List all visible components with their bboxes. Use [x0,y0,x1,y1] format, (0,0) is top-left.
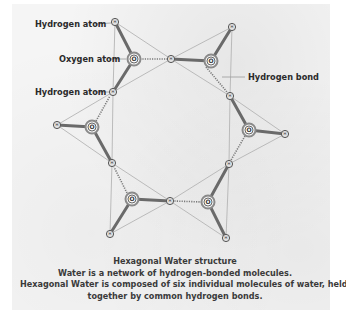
svg-text:H: H [228,161,231,166]
svg-text:H: H [284,131,287,136]
svg-text:O: O [208,57,213,64]
label-hydrogen-bond: Hydrogen bond [248,72,319,82]
hexagonal-water-figure: O O O O O O H H H H H H H H H H H H Hydr… [0,0,346,321]
svg-text:O: O [89,123,94,130]
svg-text:O: O [129,195,134,202]
svg-text:H: H [169,198,172,203]
svg-text:O: O [246,126,251,133]
label-oxygen-atom: Oxygen atom [59,54,120,64]
label-hydrogen-atom-top: Hydrogen atom [35,19,106,29]
label-hydrogen-atom-mid: Hydrogen atom [35,87,106,97]
svg-text:H: H [170,56,173,61]
svg-text:H: H [112,89,115,94]
caption-line-2: Hexagonal Water is composed of six indiv… [20,279,330,291]
hydrogen-bonds [96,59,245,202]
svg-text:H: H [225,235,228,240]
caption-title: Hexagonal Water structure [20,256,330,268]
caption-line-1: Water is a network of hydrogen-bonded mo… [20,268,330,280]
svg-text:H: H [109,231,112,236]
svg-text:H: H [231,24,234,29]
svg-text:O: O [131,55,136,62]
svg-text:H: H [111,160,114,165]
svg-text:H: H [229,93,232,98]
svg-text:O: O [205,198,210,205]
svg-text:H: H [56,122,59,127]
figure-caption: Hexagonal Water structure Water is a net… [20,256,330,302]
svg-text:H: H [114,19,117,24]
caption-line-3: together by common hydrogen bonds. [20,291,330,303]
